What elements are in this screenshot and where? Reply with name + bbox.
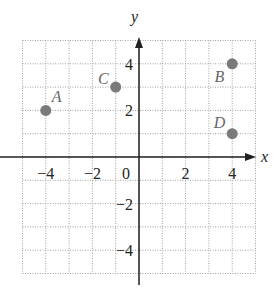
y-tick-label: 4	[125, 56, 133, 73]
axes: x y	[0, 8, 268, 285]
point-c	[110, 82, 121, 93]
x-axis-arrow-icon	[245, 153, 256, 161]
point-a	[40, 105, 51, 116]
x-tick-label: −4	[37, 165, 54, 182]
x-tick-label: 4	[228, 165, 236, 182]
x-tick-label: −2	[84, 165, 101, 182]
coordinate-plane: x y −4−202442−2−4 ABCD	[0, 0, 279, 298]
x-tick-label: 0	[122, 165, 130, 182]
x-axis-label: x	[260, 148, 268, 165]
point-label-a: A	[51, 88, 62, 105]
y-axis-arrow-icon	[135, 37, 143, 48]
x-tick-label: 2	[182, 165, 190, 182]
y-axis-label: y	[129, 8, 139, 26]
point-b	[227, 58, 238, 69]
y-tick-label: 2	[125, 102, 133, 119]
y-tick-label: −4	[116, 242, 133, 259]
y-tick-label: −2	[116, 196, 133, 213]
point-label-b: B	[214, 68, 224, 85]
point-label-c: C	[98, 70, 109, 87]
point-label-d: D	[213, 114, 226, 131]
point-d	[227, 128, 238, 139]
